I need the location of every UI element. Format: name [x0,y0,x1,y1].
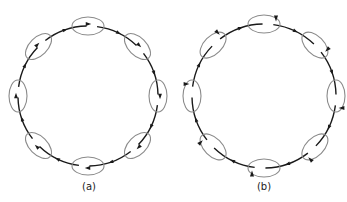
field-ring [195,27,230,62]
direction-arrow [55,158,60,162]
ring-arrow [85,166,90,170]
field-ring [297,129,332,164]
direction-arrow [150,124,154,129]
direction-arrow [22,63,26,68]
ring-arrow [158,94,162,99]
direction-arrow [116,30,121,34]
field-ring [327,80,345,112]
direction-arrow [330,70,333,75]
field-ring [195,129,230,164]
direction-arrow [328,125,332,130]
direction-arrow [285,162,290,165]
direction-arrow [197,62,201,67]
field-ring [248,159,280,177]
direction-arrow [293,29,298,33]
field-ring [72,157,104,175]
ring-arrow [14,93,18,98]
field-ring [21,128,56,163]
ring-arrow [86,22,91,26]
panel-a [9,17,167,175]
field-ring [120,29,155,64]
direction-arrow [21,116,24,121]
direction-arrow [195,117,198,122]
direction-arrow [62,29,67,32]
field-ring [21,29,56,64]
figure-canvas [0,0,347,202]
ring-arrow [33,143,40,150]
direction-arrow [238,27,243,30]
field-ring [149,80,167,112]
field-ring [72,17,104,35]
field-ring [297,27,332,62]
field-ring [248,15,280,33]
ring-arrow [34,41,41,48]
direction-arrow [152,70,155,75]
ring-arrow [135,144,142,151]
panel-b-label: (b) [257,181,271,192]
field-ring [9,80,27,112]
field-ring [120,128,155,163]
panel-a-label: (a) [82,181,96,192]
field-ring [183,80,201,112]
direction-arrow [108,160,113,163]
panel-b [183,15,345,177]
ring-arrow [136,42,143,49]
direction-arrow [230,160,235,164]
